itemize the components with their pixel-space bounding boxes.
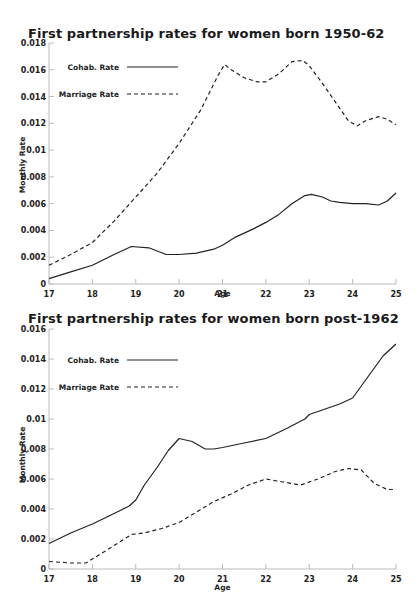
x-tick-label: 20 — [174, 575, 186, 584]
x-tick-label: 25 — [390, 575, 402, 584]
x-tick-label: 19 — [130, 575, 142, 584]
x-tick-label: 24 — [347, 575, 359, 584]
legend-label: Cohab. Rate — [68, 356, 119, 365]
y-tick-label: 0 — [40, 565, 46, 574]
y-tick-label: 0.004 — [21, 505, 47, 514]
chart-plot: 00.0020.0040.0060.0080.010.0120.0140.016… — [0, 0, 420, 607]
y-tick-label: 0.016 — [21, 325, 47, 334]
x-tick-label: 23 — [304, 575, 315, 584]
x-axis-title: Age — [214, 583, 230, 592]
marriage-rate-line — [49, 469, 396, 564]
x-tick-label: 22 — [260, 575, 271, 584]
y-tick-label: 0.01 — [26, 415, 46, 424]
x-tick-label: 17 — [43, 575, 54, 584]
cohab-rate-line — [49, 344, 396, 544]
legend-label: Marriage Rate — [59, 383, 119, 392]
x-tick-label: 18 — [87, 575, 99, 584]
y-tick-label: 0.014 — [21, 355, 47, 364]
chart-post-1962: First partnership rates for women born p… — [0, 0, 420, 607]
y-tick-label: 0.002 — [21, 535, 46, 544]
y-axis-title: Monthly Rate — [18, 427, 27, 483]
y-tick-label: 0.012 — [21, 385, 46, 394]
